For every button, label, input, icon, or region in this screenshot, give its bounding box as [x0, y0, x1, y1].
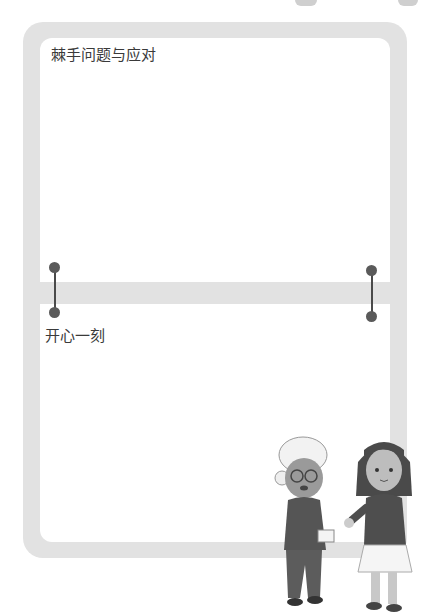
section-title-happy-moment: 开心一刻 [45, 324, 105, 345]
elderly-woman-icon [275, 437, 334, 606]
girl-icon [344, 442, 412, 612]
section-title-tricky-problems: 棘手问题与应对 [51, 43, 156, 64]
top-decoration [295, 0, 317, 6]
top-decoration [398, 0, 418, 6]
grandma-and-girl-illustration [260, 420, 425, 614]
section-panel-tricky-problems [40, 38, 390, 282]
